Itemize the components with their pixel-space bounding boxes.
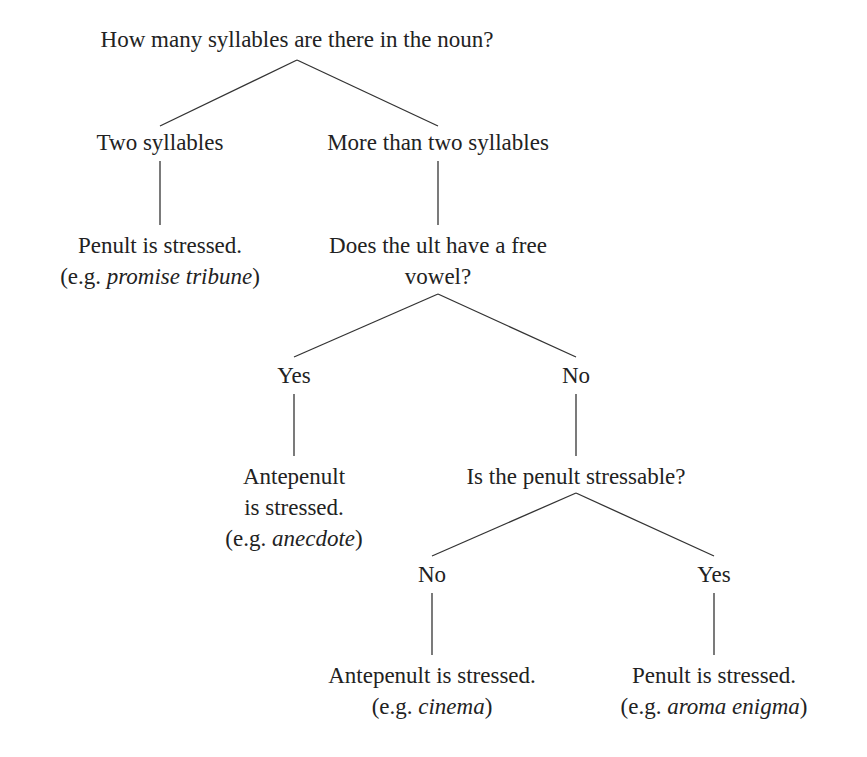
result-two-syllables: Penult is stressed. (e.g. promise tribun… <box>60 230 260 292</box>
node-yes-stressable: Yes <box>697 559 730 590</box>
edge-ultq-yes <box>294 294 438 357</box>
result-penult-aroma: Penult is stressed. (e.g. aroma enigma) <box>621 660 808 722</box>
question-ult-free-vowel: Does the ult have a free vowel? <box>329 230 547 292</box>
edge-penultq-no <box>432 493 576 556</box>
node-two-syllables: Two syllables <box>97 127 224 158</box>
result-line-1: Antepenult <box>225 461 362 492</box>
example-text: (e.g. promise tribune) <box>60 261 260 292</box>
result-line-2: is stressed. <box>225 492 362 523</box>
node-yes-free-vowel: Yes <box>277 360 310 391</box>
node-more-than-two: More than two syllables <box>327 127 549 158</box>
edge-penultq-yes <box>576 493 714 556</box>
node-no-stressable: No <box>418 559 446 590</box>
root-question: How many syllables are there in the noun… <box>101 24 494 55</box>
result-text: Penult is stressed. <box>60 230 260 261</box>
edge-root-more <box>297 60 438 126</box>
edge-root-two <box>160 60 297 126</box>
node-no-free-vowel: No <box>562 360 590 391</box>
example-text: (e.g. cinema) <box>328 691 536 722</box>
question-line-2: vowel? <box>329 261 547 292</box>
tree-edges <box>0 0 867 757</box>
question-line-1: Does the ult have a free <box>329 230 547 261</box>
result-text: Penult is stressed. <box>621 660 808 691</box>
example-text: (e.g. anecdote) <box>225 523 362 554</box>
question-penult-stressable: Is the penult stressable? <box>466 461 685 492</box>
result-antepenult-cinema: Antepenult is stressed. (e.g. cinema) <box>328 660 536 722</box>
result-text: Antepenult is stressed. <box>328 660 536 691</box>
example-text: (e.g. aroma enigma) <box>621 691 808 722</box>
edge-ultq-no <box>438 294 576 357</box>
result-antepenult-anecdote: Antepenult is stressed. (e.g. anecdote) <box>225 461 362 554</box>
